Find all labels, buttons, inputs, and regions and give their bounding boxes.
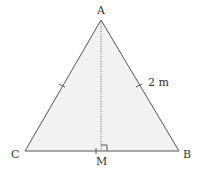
side-length-label: 2 m [148, 76, 169, 89]
triangle-diagram: A C B M 2 m [0, 0, 202, 177]
label-a: A [96, 4, 106, 17]
label-m: M [96, 155, 107, 168]
label-c: C [11, 148, 19, 161]
label-b: B [183, 148, 191, 161]
